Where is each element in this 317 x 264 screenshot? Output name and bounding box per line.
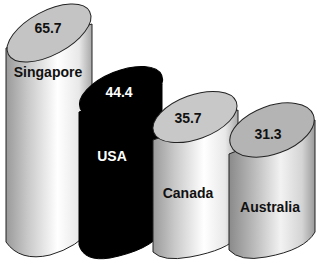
value-label-singapore: 65.7 [34, 20, 61, 36]
value-label-usa: 44.4 [105, 84, 132, 100]
value-label-australia: 31.3 [254, 126, 281, 142]
category-label-canada: Canada [163, 185, 214, 201]
value-label-canada: 35.7 [174, 110, 201, 126]
category-label-singapore: Singapore [14, 64, 82, 80]
category-label-usa: USA [97, 148, 127, 164]
category-label-australia: Australia [240, 199, 300, 215]
